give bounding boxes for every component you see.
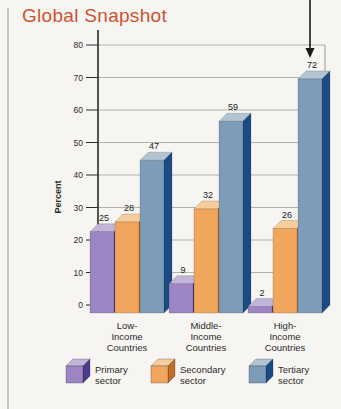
legend-label-line: sector: [95, 375, 128, 386]
y-tick-label: 50: [74, 138, 84, 148]
legend-label-line: Secondary: [180, 364, 225, 375]
bar-2-2: [298, 79, 322, 313]
y-tick-label: 30: [74, 203, 84, 213]
secondary-sector-cube-icon: [148, 355, 178, 385]
y-tick-label: 40: [74, 170, 84, 180]
category-label-2: High-IncomeCountries: [265, 320, 306, 353]
cube-face: [151, 366, 168, 383]
category-label-0: Low-IncomeCountries: [107, 320, 148, 353]
bar-value-label-1-0: 28: [124, 203, 134, 213]
chart-legend: Primary sector Secondary sector Tertiary…: [0, 352, 341, 402]
legend-label-line: sector: [278, 375, 309, 386]
bar-1-1: [194, 209, 218, 313]
bar-value-label-2-1: 59: [228, 102, 238, 112]
bar-value-label-0-2: 2: [259, 288, 264, 298]
y-tick-label: 0: [78, 300, 83, 310]
legend-label-primary: Primary sector: [95, 364, 128, 386]
bar-side-2-2: [322, 71, 330, 313]
bar-value-label-0-1: 9: [180, 265, 185, 275]
bar-value-label-0-0: 25: [99, 213, 109, 223]
y-axis-label: Percent: [53, 180, 63, 213]
y-tick-label: 80: [74, 40, 84, 50]
category-label-1: Middle-IncomeCountries: [186, 320, 227, 353]
bar-0-2: [248, 307, 272, 314]
legend-label-secondary: Secondary sector: [180, 364, 225, 386]
cube-face: [249, 366, 266, 383]
bar-value-label-1-1: 32: [203, 190, 213, 200]
bar-value-label-2-2: 72: [307, 60, 317, 70]
tertiary-sector-cube-icon: [246, 355, 276, 385]
bar-side-2-1: [243, 113, 251, 313]
figure-panel: Global Snapshot 01020304050607080Percent…: [0, 0, 341, 409]
bar-0-1: [169, 284, 193, 313]
bar-value-label-2-0: 47: [149, 141, 159, 151]
cube-face: [66, 366, 83, 383]
legend-label-line: Primary: [95, 364, 128, 375]
bar-2-0: [140, 160, 164, 313]
legend-label-line: Tertiary: [278, 364, 309, 375]
legend-item-secondary: Secondary sector: [148, 355, 225, 386]
legend-item-tertiary: Tertiary sector: [246, 355, 309, 386]
legend-item-primary: Primary sector: [63, 355, 128, 386]
y-tick-label: 20: [74, 235, 84, 245]
legend-label-line: sector: [180, 375, 225, 386]
legend-label-tertiary: Tertiary sector: [278, 364, 309, 386]
bar-chart: 01020304050607080Percent2528479325922672…: [0, 0, 341, 409]
y-tick-label: 60: [74, 105, 84, 115]
bar-value-label-1-2: 26: [282, 210, 292, 220]
bar-1-0: [115, 222, 139, 313]
bar-1-2: [273, 229, 297, 314]
y-tick-label: 10: [74, 268, 84, 278]
annotation-arrowhead-icon: [306, 48, 315, 58]
bar-0-0: [90, 232, 114, 313]
primary-sector-cube-icon: [63, 355, 93, 385]
y-tick-label: 70: [74, 73, 84, 83]
bar-2-1: [219, 121, 243, 313]
